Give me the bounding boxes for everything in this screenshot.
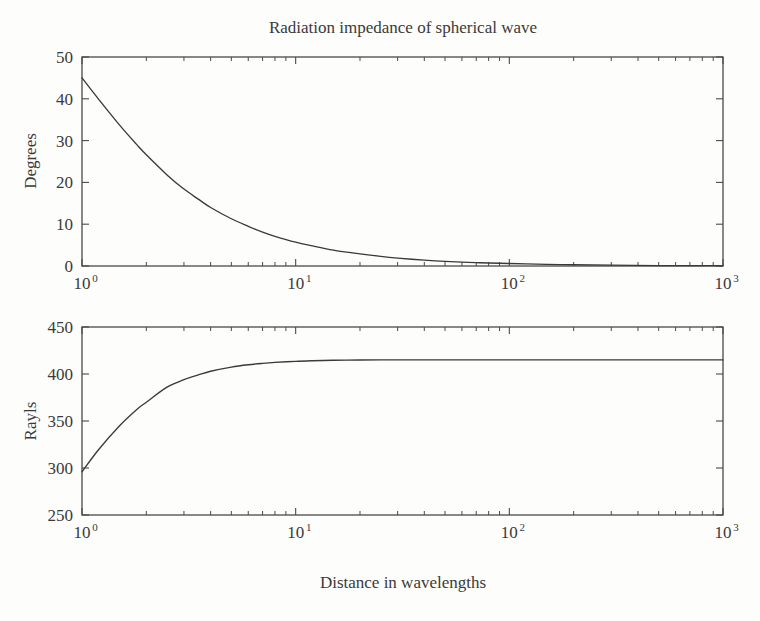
svg-text:0: 0 — [92, 521, 98, 533]
x-tick-label: 100 — [74, 272, 99, 293]
x-axis-label: Distance in wavelengths — [320, 573, 486, 592]
panel-degrees: 01020304050100101102103 Degrees — [21, 48, 739, 293]
svg-text:1: 1 — [306, 521, 312, 533]
svg-text:1: 1 — [306, 272, 312, 284]
svg-text:10: 10 — [501, 274, 518, 293]
svg-text:10: 10 — [715, 274, 732, 293]
resistance-curve — [82, 360, 723, 472]
svg-text:2: 2 — [520, 272, 526, 284]
x-tick-label: 102 — [501, 272, 525, 293]
radiation-impedance-figure: Radiation impedance of spherical wave 01… — [0, 0, 760, 621]
y-tick-label: 30 — [56, 132, 73, 151]
top-y-axis-label: Degrees — [21, 133, 40, 189]
x-tick-label: 101 — [287, 521, 311, 542]
top-axis-tick-labels: 01020304050100101102103 — [56, 48, 739, 293]
svg-text:3: 3 — [733, 272, 739, 284]
y-tick-label: 300 — [48, 459, 74, 478]
y-tick-label: 0 — [65, 257, 74, 276]
y-tick-label: 450 — [48, 318, 74, 337]
svg-text:10: 10 — [715, 523, 732, 542]
bottom-axis-ticks — [82, 327, 723, 515]
x-tick-label: 100 — [74, 521, 99, 542]
svg-text:10: 10 — [74, 523, 91, 542]
svg-text:10: 10 — [287, 274, 304, 293]
bottom-axis-tick-labels: 250300350400450100101102103 — [48, 318, 740, 542]
svg-text:0: 0 — [92, 272, 98, 284]
y-tick-label: 350 — [48, 412, 74, 431]
x-tick-label: 103 — [715, 272, 740, 293]
top-plot-frame — [82, 57, 723, 266]
y-tick-label: 40 — [56, 90, 73, 109]
x-tick-label: 101 — [287, 272, 311, 293]
page-title: Radiation impedance of spherical wave — [269, 18, 537, 37]
svg-text:3: 3 — [733, 521, 739, 533]
top-axis-ticks — [82, 57, 723, 266]
phase-angle-curve — [82, 78, 723, 266]
svg-text:10: 10 — [287, 523, 304, 542]
x-tick-label: 102 — [501, 521, 525, 542]
y-tick-label: 10 — [56, 215, 73, 234]
y-tick-label: 400 — [48, 365, 74, 384]
svg-text:10: 10 — [501, 523, 518, 542]
svg-text:10: 10 — [74, 274, 91, 293]
bottom-y-axis-label: Rayls — [21, 402, 40, 441]
y-tick-label: 50 — [56, 48, 73, 67]
bottom-plot-frame — [82, 327, 723, 515]
panel-rayls: 250300350400450100101102103 Rayls — [21, 318, 739, 542]
x-tick-label: 103 — [715, 521, 740, 542]
figure-container: Radiation impedance of spherical wave 01… — [0, 0, 760, 621]
y-tick-label: 250 — [48, 506, 74, 525]
y-tick-label: 20 — [56, 173, 73, 192]
svg-text:2: 2 — [520, 521, 526, 533]
